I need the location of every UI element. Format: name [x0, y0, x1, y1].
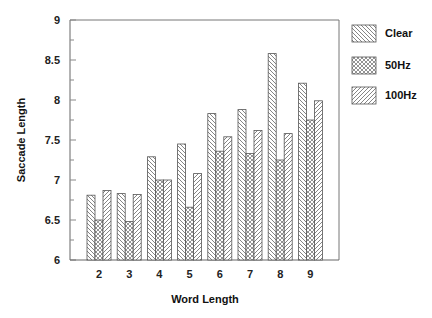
- bar-50hz-2: [95, 220, 103, 260]
- bar-100hz-3: [133, 194, 141, 260]
- legend: Clear50Hz100Hz: [352, 25, 417, 104]
- grouped-bar-chart: 66.577.588.59 23456789 Clear50Hz100Hz Wo…: [0, 0, 432, 318]
- legend-label: 50Hz: [385, 59, 411, 71]
- bar-clear-8: [268, 54, 276, 260]
- bar-50hz-8: [276, 160, 284, 260]
- legend-swatch: [352, 25, 376, 42]
- y-tick-label: 7: [54, 174, 60, 186]
- bar-group-5: [178, 144, 202, 260]
- bar-100hz-7: [254, 130, 262, 260]
- bar-clear-7: [238, 110, 246, 260]
- y-tick-label: 8: [54, 94, 60, 106]
- bar-50hz-9: [306, 120, 314, 260]
- bar-100hz-5: [194, 174, 202, 260]
- y-tick-label: 6.5: [45, 214, 60, 226]
- y-axis-title: Saccade Length: [15, 98, 27, 183]
- legend-label: 100Hz: [385, 89, 417, 101]
- bar-100hz-8: [284, 134, 292, 260]
- bar-50hz-5: [186, 207, 194, 260]
- bar-clear-2: [87, 195, 95, 260]
- bar-clear-3: [117, 194, 125, 260]
- legend-swatch: [352, 57, 376, 74]
- bar-group-6: [208, 114, 232, 260]
- x-tick-label: 5: [187, 268, 193, 280]
- legend-item-100hz: 100Hz: [352, 87, 417, 104]
- legend-swatch: [352, 87, 376, 104]
- y-axis: 66.577.588.59: [45, 14, 76, 266]
- bar-50hz-6: [216, 151, 224, 260]
- x-tick-label: 2: [96, 268, 102, 280]
- bar-50hz-7: [246, 154, 254, 260]
- bar-group-8: [268, 54, 292, 260]
- bar-group-2: [87, 190, 111, 260]
- y-tick-label: 6: [54, 254, 60, 266]
- y-tick-label: 8.5: [45, 54, 60, 66]
- x-tick-label: 4: [156, 268, 163, 280]
- bar-group-7: [238, 110, 262, 260]
- x-tick-label: 8: [277, 268, 283, 280]
- bar-100hz-6: [224, 137, 232, 260]
- bar-group-9: [298, 83, 322, 260]
- bar-clear-5: [178, 144, 186, 260]
- x-tick-label: 3: [126, 268, 132, 280]
- legend-label: Clear: [385, 27, 413, 39]
- x-tick-label: 6: [217, 268, 223, 280]
- x-tick-label: 7: [247, 268, 253, 280]
- y-tick-label: 9: [54, 14, 60, 26]
- bar-100hz-2: [103, 190, 111, 260]
- x-axis-title: Word Length: [171, 293, 239, 305]
- bar-100hz-9: [314, 101, 322, 260]
- x-axis: 23456789: [70, 260, 339, 280]
- bar-50hz-3: [125, 222, 133, 260]
- y-tick-label: 7.5: [45, 134, 60, 146]
- bar-50hz-4: [155, 180, 163, 260]
- bar-100hz-4: [163, 180, 171, 260]
- bar-clear-9: [298, 83, 306, 260]
- bar-clear-4: [147, 157, 155, 260]
- legend-item-clear: Clear: [352, 25, 413, 42]
- bars: [87, 54, 322, 260]
- bar-group-4: [147, 157, 171, 260]
- legend-item-50hz: 50Hz: [352, 57, 411, 74]
- bar-clear-6: [208, 114, 216, 260]
- bar-group-3: [117, 194, 141, 260]
- x-tick-label: 9: [307, 268, 313, 280]
